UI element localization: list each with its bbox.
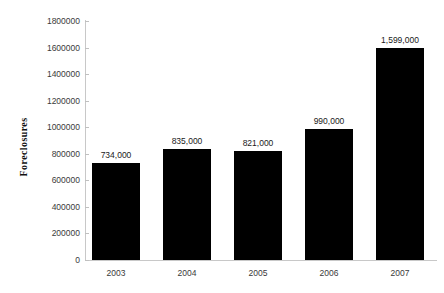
y-axis-tick-label: 0 [6,255,80,265]
x-axis-tick-label-2006: 2006 [294,268,364,278]
bar-2006 [305,129,353,260]
bar-value-label-2004: 835,000 [151,136,223,146]
foreclosures-bar-chart: Foreclosures 020000040000060000080000010… [0,0,444,293]
x-axis-line [85,260,437,261]
x-axis-tick-label-2007: 2007 [365,268,435,278]
y-axis-tick [85,260,89,261]
y-axis-tick-label: 1200000 [6,96,80,106]
x-axis-tick-label-2005: 2005 [223,268,293,278]
bar-value-label-2007: 1,599,000 [364,35,436,45]
bar-2007 [376,48,424,260]
bar-2003 [92,163,140,260]
y-axis-tick-label: 800000 [6,149,80,159]
bar-2004 [163,149,211,260]
y-axis-tick-label: 1600000 [6,43,80,53]
bar-value-label-2005: 821,000 [222,138,294,148]
bar-2005 [234,151,282,260]
x-axis-tick-label-2003: 2003 [81,268,151,278]
y-axis-tick-label: 1400000 [6,69,80,79]
bar-value-label-2003: 734,000 [80,150,152,160]
x-axis-tick-label-2004: 2004 [152,268,222,278]
y-axis-tick-label: 200000 [6,228,80,238]
bar-value-label-2006: 990,000 [293,116,365,126]
y-axis-tick-label: 1800000 [6,16,80,26]
y-axis-tick-label: 1000000 [6,122,80,132]
y-axis-tick-label: 600000 [6,175,80,185]
y-axis-tick-label: 400000 [6,202,80,212]
